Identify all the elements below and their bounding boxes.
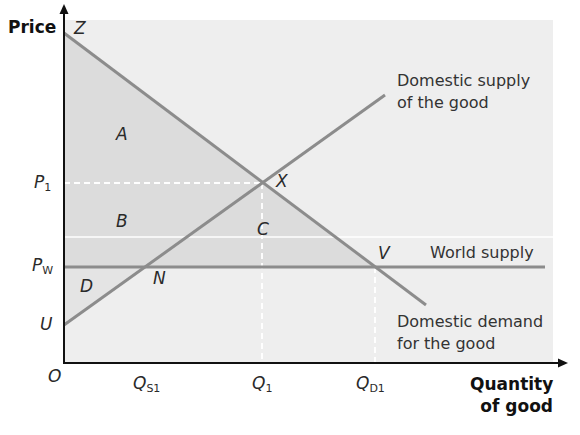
p1-main: P bbox=[34, 172, 44, 192]
supply-label-line2: of the good bbox=[397, 92, 530, 114]
point-x-label: X bbox=[276, 171, 288, 191]
supply-label-line1: Domestic supply bbox=[397, 70, 530, 92]
qs1-main: Q bbox=[133, 373, 146, 393]
p1-sub: 1 bbox=[44, 181, 51, 194]
y-axis-title: Price bbox=[8, 17, 56, 37]
pw-sub: W bbox=[42, 264, 53, 277]
x-axis-title: Quantity of good bbox=[470, 374, 553, 416]
x-axis-arrow-icon bbox=[558, 359, 568, 368]
u-label: U bbox=[40, 314, 52, 334]
demand-label-line1: Domestic demand bbox=[397, 311, 543, 333]
qd1-sub: D1 bbox=[369, 382, 384, 395]
z-label: Z bbox=[74, 18, 86, 38]
q1-sub: 1 bbox=[265, 382, 272, 395]
world-supply-label: World supply bbox=[430, 242, 534, 264]
demand-label-line2: for the good bbox=[397, 333, 543, 355]
qs1-label: QS1 bbox=[133, 373, 160, 395]
q1-label: Q1 bbox=[252, 373, 272, 395]
area-b-label: B bbox=[116, 211, 128, 231]
qd1-main: Q bbox=[356, 373, 369, 393]
p1-label: P1 bbox=[34, 172, 51, 194]
x-axis-title-line1: Quantity bbox=[470, 374, 553, 394]
origin-label: O bbox=[48, 366, 61, 386]
area-a-label: A bbox=[116, 124, 128, 144]
area-d-label: D bbox=[80, 276, 93, 296]
qs1-sub: S1 bbox=[146, 382, 160, 395]
supply-curve-label: Domestic supply of the good bbox=[397, 70, 530, 114]
diagram-canvas bbox=[0, 0, 580, 435]
point-v-label: V bbox=[378, 243, 390, 263]
point-n-label: N bbox=[153, 268, 166, 288]
pw-main: P bbox=[32, 255, 42, 275]
y-axis-arrow-icon bbox=[60, 4, 69, 14]
pw-label: PW bbox=[32, 255, 53, 277]
qd1-label: QD1 bbox=[356, 373, 385, 395]
q1-main: Q bbox=[252, 373, 265, 393]
demand-curve-label: Domestic demand for the good bbox=[397, 311, 543, 355]
x-axis-title-line2: of good bbox=[470, 396, 553, 416]
area-c-label: C bbox=[257, 219, 269, 239]
